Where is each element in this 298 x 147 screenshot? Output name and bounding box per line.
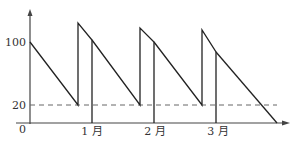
x-tick-label-2: 2 月 <box>144 125 166 138</box>
y-tick-label-100: 100 <box>5 36 26 49</box>
x-tick-label-3: 3 月 <box>207 125 229 138</box>
inventory-series-line <box>92 28 154 123</box>
x-axis-arrow-icon <box>282 121 290 126</box>
inventory-series-line <box>154 30 216 123</box>
inventory-sawtooth-chart: 100 20 0 1 月 2 月 3 月 <box>0 0 298 147</box>
inventory-series-line <box>216 52 277 123</box>
x-tick-label-1: 1 月 <box>81 125 103 138</box>
origin-label: 0 <box>19 123 26 136</box>
y-tick-label-20: 20 <box>12 99 26 112</box>
y-axis-arrow-icon <box>28 9 33 16</box>
inventory-series-line <box>30 23 92 123</box>
